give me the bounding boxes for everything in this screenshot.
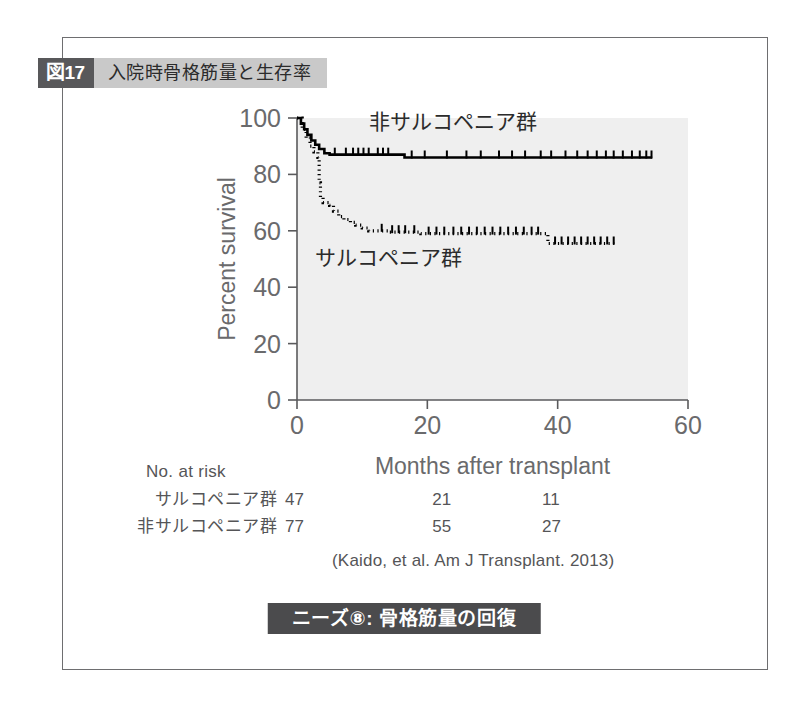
citation-text: (Kaido, et al. Am J Transplant. 2013) bbox=[332, 551, 614, 571]
figure-frame bbox=[62, 37, 768, 670]
risk-row-value: 27 bbox=[542, 517, 648, 537]
number-at-risk-table: No. at risk サルコペニア群 47 21 11 非サルコペニア群 77… bbox=[128, 462, 648, 539]
risk-row-value: 11 bbox=[542, 490, 648, 510]
risk-row-label: 非サルコペニア群 bbox=[128, 512, 285, 537]
table-row: サルコペニア群 47 21 11 bbox=[128, 485, 648, 512]
risk-row-value: 47 bbox=[285, 490, 432, 510]
figure-header: 図17 入院時骨格筋量と生存率 bbox=[38, 58, 327, 88]
figure-title: 入院時骨格筋量と生存率 bbox=[94, 58, 328, 88]
risk-table-title: No. at risk bbox=[146, 462, 648, 482]
risk-row-label: サルコペニア群 bbox=[128, 485, 285, 510]
risk-row-value: 77 bbox=[285, 517, 432, 537]
needs-banner: ニーズ⑧: 骨格筋量の回復 bbox=[268, 603, 541, 634]
risk-row-value: 55 bbox=[432, 517, 542, 537]
risk-row-value: 21 bbox=[432, 490, 542, 510]
table-row: 非サルコペニア群 77 55 27 bbox=[128, 512, 648, 539]
figure-number-badge: 図17 bbox=[38, 58, 94, 88]
